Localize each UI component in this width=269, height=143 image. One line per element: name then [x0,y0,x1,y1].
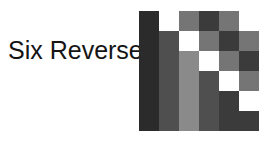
grid-cell-r4-c4 [199,71,219,91]
grid-cell-r5-c4 [199,91,219,111]
grid-cell-r4-c2 [159,71,179,91]
grid-cell-r1-c1 [139,11,159,31]
grid-cell-r4-c6 [239,71,259,91]
grid-cell-r4-c3 [179,71,199,91]
grid-cell-r5-c5 [219,91,239,111]
grid-cell-r3-c2 [159,51,179,71]
pattern-grid-container [139,11,259,131]
grid-cell-r2-c1 [139,31,159,51]
grid-cell-r3-c4 [199,51,219,71]
grid-cell-r6-c2 [159,111,179,131]
grid-cell-r3-c1 [139,51,159,71]
grid-cell-r4-c5 [219,71,239,91]
grid-cell-r6-c5 [219,111,239,131]
grid-cell-r1-c3 [179,11,199,31]
grid-cell-r1-c6 [239,11,259,31]
grid-cell-r1-c5 [219,11,239,31]
figure-label: Six Reverse [8,36,143,64]
grid-cell-r1-c4 [199,11,219,31]
grid-cell-r3-c3 [179,51,199,71]
grid-cell-r3-c6 [239,51,259,71]
grid-cell-r1-c2 [159,11,179,31]
grid-cell-r2-c2 [159,31,179,51]
grid-cell-r6-c3 [179,111,199,131]
grid-cell-r5-c2 [159,91,179,111]
grid-cell-r5-c1 [139,91,159,111]
grid-cell-r2-c4 [199,31,219,51]
grid-cell-r5-c6 [239,91,259,111]
pattern-grid [139,11,259,131]
grid-cell-r3-c5 [219,51,239,71]
grid-cell-r2-c3 [179,31,199,51]
six-reverse-figure: Six Reverse [0,0,269,143]
grid-cell-r2-c6 [239,31,259,51]
grid-cell-r6-c6 [239,111,259,131]
grid-cell-r6-c4 [199,111,219,131]
grid-cell-r4-c1 [139,71,159,91]
grid-cell-r5-c3 [179,91,199,111]
grid-cell-r6-c1 [139,111,159,131]
grid-cell-r2-c5 [219,31,239,51]
